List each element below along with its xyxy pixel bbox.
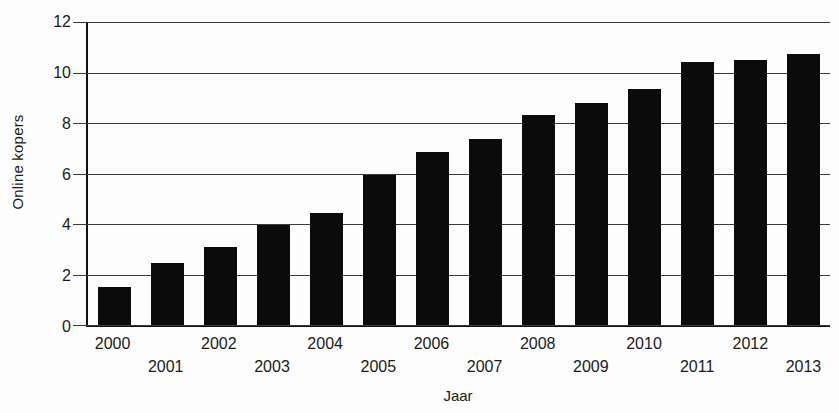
bar-slot-2007 (459, 22, 512, 325)
y-tick-label-0: 0 (41, 319, 71, 335)
y-tick-label-12: 12 (41, 14, 71, 30)
x-tick-label-2003: 2003 (254, 359, 290, 375)
bars-layer (88, 22, 830, 325)
online-kopers-bar-chart: Online kopers 024681012 2000200120022003… (0, 0, 839, 413)
x-tick-label-2008: 2008 (520, 336, 556, 352)
x-tick-label-2006: 2006 (414, 336, 450, 352)
bar-2013 (787, 54, 820, 325)
bar-2002 (204, 247, 237, 325)
bar-2003 (257, 225, 290, 325)
bar-2006 (416, 152, 449, 325)
bar-slot-2005 (353, 22, 406, 325)
y-tick-label-6: 6 (41, 167, 71, 183)
y-tick-label-8: 8 (41, 116, 71, 132)
bar-slot-2006 (406, 22, 459, 325)
x-tick-label-2007: 2007 (467, 359, 503, 375)
bar-slot-2012 (724, 22, 777, 325)
bar-2010 (628, 89, 661, 325)
bar-2012 (734, 60, 767, 325)
x-axis-title: Jaar (86, 387, 830, 404)
bar-slot-2010 (618, 22, 671, 325)
bar-2009 (575, 103, 608, 325)
y-tick-label-4: 4 (41, 217, 71, 233)
bar-slot-2003 (247, 22, 300, 325)
bar-slot-2011 (671, 22, 724, 325)
bar-slot-2002 (194, 22, 247, 325)
x-axis-tick-labels: 2000200120022003200420052006200720082009… (86, 327, 830, 387)
x-tick-label-2000: 2000 (95, 336, 131, 352)
bar-2001 (151, 263, 184, 325)
y-tick-label-10: 10 (41, 65, 71, 81)
y-tick-label-2: 2 (41, 268, 71, 284)
y-axis-title: Online kopers (9, 114, 26, 209)
bar-2008 (522, 115, 555, 325)
bar-slot-2009 (565, 22, 618, 325)
x-tick-label-2009: 2009 (573, 359, 609, 375)
x-tick-label-2010: 2010 (626, 336, 662, 352)
x-tick-label-2012: 2012 (732, 336, 768, 352)
gridline-y-0 (73, 325, 830, 326)
bar-slot-2013 (777, 22, 830, 325)
bar-slot-2001 (141, 22, 194, 325)
bar-slot-2008 (512, 22, 565, 325)
x-tick-label-2004: 2004 (307, 336, 343, 352)
x-tick-label-2013: 2013 (786, 359, 822, 375)
bar-slot-2000 (88, 22, 141, 325)
x-tick-label-2005: 2005 (360, 359, 396, 375)
bar-slot-2004 (300, 22, 353, 325)
bar-2004 (310, 213, 343, 325)
x-tick-label-2011: 2011 (680, 359, 714, 375)
bar-2000 (98, 287, 131, 325)
plot-area (86, 22, 830, 327)
bar-2011 (681, 62, 714, 325)
bar-2005 (363, 175, 396, 325)
x-tick-label-2002: 2002 (201, 336, 237, 352)
bar-2007 (469, 139, 502, 325)
x-tick-label-2001: 2001 (148, 359, 184, 375)
